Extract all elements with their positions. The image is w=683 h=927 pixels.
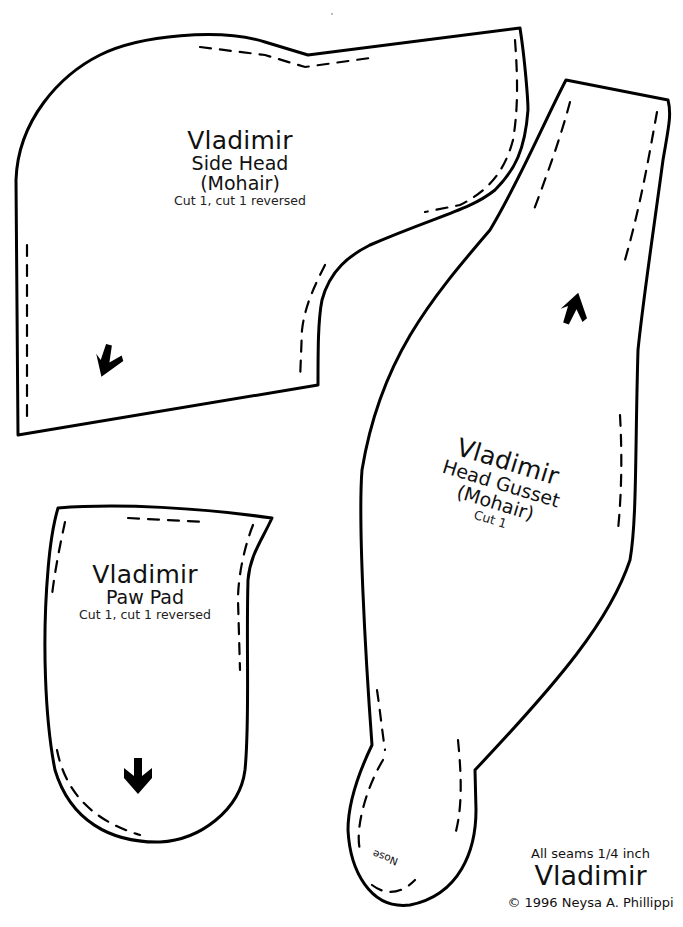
side-head-label: Vladimir Side Head (Mohair) Cut 1, cut 1… bbox=[150, 128, 330, 207]
side-head-part: Side Head bbox=[150, 154, 330, 174]
side-head-title: Vladimir bbox=[150, 128, 330, 154]
pattern-sheet bbox=[0, 0, 683, 927]
paw-pad-title: Vladimir bbox=[55, 562, 235, 588]
seam-allowance-note: All seams 1/4 inch bbox=[498, 846, 683, 861]
pattern-footer: All seams 1/4 inch Vladimir © 1996 Neysa… bbox=[498, 846, 683, 910]
paw-pad-part: Paw Pad bbox=[55, 588, 235, 608]
footer-title: Vladimir bbox=[498, 861, 683, 891]
paw-pad-label: Vladimir Paw Pad Cut 1, cut 1 reversed bbox=[55, 562, 235, 621]
side-head-cut: Cut 1, cut 1 reversed bbox=[150, 194, 330, 207]
paw-pad-piece bbox=[45, 506, 272, 842]
copyright-notice: © 1996 Neysa A. Phillippi bbox=[498, 895, 683, 910]
paw-pad-cut: Cut 1, cut 1 reversed bbox=[55, 608, 235, 621]
side-head-material: (Mohair) bbox=[150, 174, 330, 194]
paw-pad-outline bbox=[45, 506, 272, 842]
